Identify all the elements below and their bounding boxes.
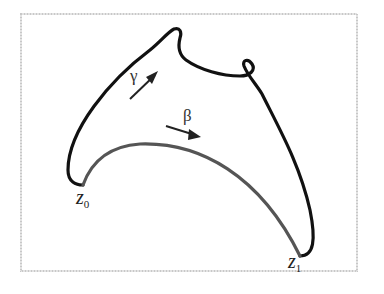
z0-label: z0 — [76, 186, 89, 210]
z1-subscript: 1 — [296, 262, 302, 274]
z1-label: z1 — [288, 250, 301, 274]
beta-curve — [83, 144, 300, 256]
path-diagram — [0, 0, 384, 294]
frame — [21, 14, 357, 271]
gamma-label: γ — [130, 66, 138, 86]
gamma-curve — [68, 29, 313, 256]
z0-subscript: 0 — [84, 198, 90, 210]
z0-base: z — [76, 186, 84, 208]
beta-label: β — [183, 106, 192, 126]
z1-base: z — [288, 250, 296, 272]
beta-direction-arrow — [166, 126, 201, 140]
